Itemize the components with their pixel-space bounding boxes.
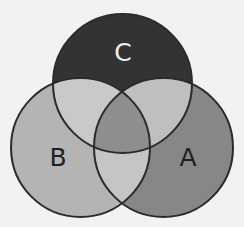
venn-diagram: C B A: [0, 0, 244, 227]
set-a-label: A: [179, 143, 196, 172]
set-c-label: C: [114, 38, 131, 67]
set-b-label: B: [49, 143, 66, 172]
